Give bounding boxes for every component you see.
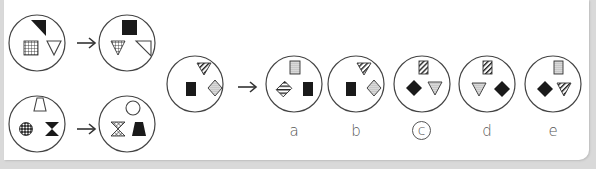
example-1-before: [9, 15, 65, 71]
arrow-icon: [77, 38, 95, 48]
option-label-a[interactable]: a: [279, 122, 309, 140]
option-b[interactable]: [328, 56, 384, 112]
option-c[interactable]: [394, 56, 450, 112]
option-label-e[interactable]: e: [538, 122, 568, 140]
option-d[interactable]: [459, 56, 515, 112]
checkered-circle-icon: [20, 123, 33, 136]
white-circle-icon: [126, 101, 140, 115]
option-a[interactable]: [266, 56, 322, 112]
question-before: [167, 56, 223, 112]
arrow-icon: [238, 82, 256, 92]
option-label-c-selected[interactable]: c: [412, 121, 431, 140]
puzzle-panel: a b c d e: [4, 0, 589, 160]
example-1-after: [99, 15, 155, 71]
arrow-icon: [77, 124, 95, 134]
example-2-before: [9, 96, 65, 152]
option-label-b[interactable]: b: [341, 122, 371, 140]
option-label-d[interactable]: d: [472, 122, 502, 140]
example-2-after: [99, 96, 155, 152]
black-rectangle-icon: [186, 82, 196, 96]
black-square-icon: [122, 20, 137, 35]
option-e[interactable]: [525, 56, 581, 112]
grid-square-icon: [24, 41, 38, 55]
